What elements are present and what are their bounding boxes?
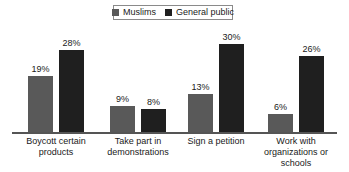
category-axis-labels: Boycott certain products Take part in de… bbox=[0, 136, 349, 172]
bar-value-label: 26% bbox=[302, 44, 320, 54]
bar-general-public-take-part-in-demonstrations: 8% bbox=[141, 24, 166, 132]
bar-rect bbox=[188, 94, 213, 132]
bar-general-public-boycott-certain-products: 28% bbox=[59, 24, 84, 132]
bar-value-label: 13% bbox=[191, 82, 209, 92]
bar-value-label: 28% bbox=[62, 38, 80, 48]
legend-label-general-public: General public bbox=[176, 8, 234, 17]
bar-general-public-sign-a-petition: 30% bbox=[219, 24, 244, 132]
category-label-line: products bbox=[10, 147, 102, 158]
legend-swatch-muslims bbox=[112, 9, 119, 16]
bar-rect bbox=[141, 109, 166, 132]
legend-entry-general-public: General public bbox=[165, 8, 234, 17]
bar-rect bbox=[59, 50, 84, 132]
bar-rect bbox=[28, 76, 53, 132]
bar-rect bbox=[219, 44, 244, 132]
category-label-line: Boycott certain bbox=[10, 136, 102, 147]
category-label-line: Sign a petition bbox=[170, 136, 262, 147]
bar-muslims-take-part-in-demonstrations: 9% bbox=[110, 24, 135, 132]
category-label-line: Work with bbox=[250, 136, 342, 147]
bar-muslims-work-with-organizations-or-schools: 6% bbox=[268, 24, 293, 132]
plot-area: 19% 28% 9% 8% 13% 30% bbox=[0, 22, 349, 134]
chart-legend: Muslims General public bbox=[113, 5, 233, 20]
bar-rect bbox=[299, 56, 324, 132]
legend-swatch-general-public bbox=[165, 9, 172, 16]
bar-value-label: 30% bbox=[222, 32, 240, 42]
bar-group-boycott-certain-products: 19% 28% bbox=[22, 24, 90, 132]
bar-muslims-boycott-certain-products: 19% bbox=[28, 24, 53, 132]
bar-group-work-with-organizations-or-schools: 6% 26% bbox=[262, 24, 330, 132]
bar-value-label: 6% bbox=[274, 102, 287, 112]
legend-label-muslims: Muslims bbox=[123, 8, 156, 17]
bar-muslims-sign-a-petition: 13% bbox=[188, 24, 213, 132]
bar-value-label: 9% bbox=[116, 94, 129, 104]
category-label-line: demonstrations bbox=[92, 147, 184, 158]
category-label-boycott-certain-products: Boycott certain products bbox=[10, 136, 102, 158]
category-label-work-with-organizations-or-schools: Work with organizations or schools bbox=[250, 136, 342, 169]
category-label-line: schools bbox=[250, 158, 342, 169]
category-label-line: organizations or bbox=[250, 147, 342, 158]
bar-group-take-part-in-demonstrations: 9% 8% bbox=[104, 24, 172, 132]
bar-value-label: 19% bbox=[31, 64, 49, 74]
grouped-bar-chart: Muslims General public 19% 28% 9% 8% bbox=[0, 0, 349, 172]
axis-baseline bbox=[12, 132, 337, 134]
bar-general-public-work-with-organizations-or-schools: 26% bbox=[299, 24, 324, 132]
category-label-sign-a-petition: Sign a petition bbox=[170, 136, 262, 147]
legend-entry-muslims: Muslims bbox=[112, 8, 156, 17]
bar-rect bbox=[268, 114, 293, 132]
bar-group-sign-a-petition: 13% 30% bbox=[182, 24, 250, 132]
bar-value-label: 8% bbox=[147, 97, 160, 107]
bar-rect bbox=[110, 106, 135, 132]
